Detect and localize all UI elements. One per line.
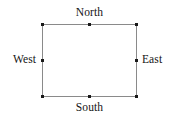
north-west-corner-node xyxy=(41,23,44,26)
diagram-canvas: North South West East xyxy=(0,0,179,123)
east-midpoint-node xyxy=(135,59,138,62)
west-label: West xyxy=(0,53,36,66)
south-east-corner-node xyxy=(135,95,138,98)
east-label: East xyxy=(142,53,162,66)
north-east-corner-node xyxy=(135,23,138,26)
west-midpoint-node xyxy=(41,59,44,62)
south-label: South xyxy=(0,101,179,114)
north-label: North xyxy=(0,6,179,19)
north-midpoint-node xyxy=(88,23,91,26)
south-midpoint-node xyxy=(88,95,91,98)
south-west-corner-node xyxy=(41,95,44,98)
